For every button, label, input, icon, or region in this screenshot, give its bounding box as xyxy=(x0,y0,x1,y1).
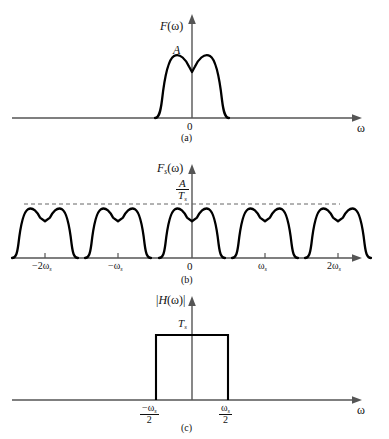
panel-c-left-cutoff-label: −ωs 2 xyxy=(140,403,159,425)
panel-a-spectrum: F(ω) A 0 ω (a) xyxy=(0,0,389,150)
panel-b-replica-plus1 xyxy=(232,208,298,258)
panel-b-tick-label-minus-ws: −ωs xyxy=(108,261,123,272)
panel-a-caption: (a) xyxy=(181,132,192,143)
panel-b-origin-label: 0 xyxy=(187,261,193,272)
panel-c-y-arrowhead xyxy=(188,296,196,306)
panel-b-x-arrowhead xyxy=(352,254,362,262)
panel-b-y-axis-label: Fs(ω) xyxy=(157,162,183,175)
panel-c-filter-response: |H(ω)| Ts −ωs 2 ωs 2 ω (c) xyxy=(0,290,389,439)
panel-b-replica-minus1 xyxy=(85,208,151,258)
panel-c-x-axis-label: ω xyxy=(357,404,365,416)
panel-b-replica-minus2 xyxy=(12,208,78,258)
panel-c-right-cutoff-label: ωs 2 xyxy=(219,403,232,425)
panel-b-sampled-spectrum: Fs(ω) A Ts 0 −2ωs −ωs ωs 2ωs (b) xyxy=(0,150,389,290)
panel-c-caption: (c) xyxy=(181,422,192,433)
panel-a-peak-label: A xyxy=(173,44,180,56)
panel-b-tick-label-minus-2ws: −2ωs xyxy=(32,261,52,272)
panel-b-replica-plus2 xyxy=(305,208,371,258)
panel-a-x-axis-label: ω xyxy=(357,122,365,134)
panel-c-plot xyxy=(0,290,389,439)
panel-b-y-arrowhead xyxy=(188,164,196,174)
panel-c-height-label: Ts xyxy=(178,318,187,331)
panel-a-y-arrowhead xyxy=(188,14,196,24)
panel-c-y-axis-label: |H(ω)| xyxy=(156,294,185,306)
panel-b-tick-label-ws: ωs xyxy=(258,261,267,272)
panel-a-plot xyxy=(0,0,389,150)
panel-a-origin-label: 0 xyxy=(187,121,193,132)
panel-b-tick-label-2ws: 2ωs xyxy=(327,261,341,272)
panel-b-caption: (b) xyxy=(181,274,193,285)
panel-b-peak-label: A Ts xyxy=(176,178,189,203)
panel-a-y-axis-label: F(ω) xyxy=(160,20,183,32)
